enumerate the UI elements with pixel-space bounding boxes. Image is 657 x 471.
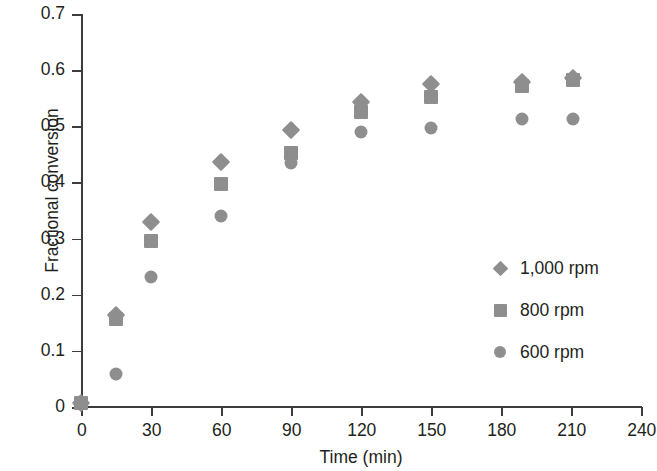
data-point [109,312,123,326]
x-tick-label: 120 [347,420,376,441]
y-tick-label: 0 [55,396,65,417]
data-point [212,152,230,170]
x-tick-label: 30 [142,420,161,441]
data-point [566,73,580,87]
square-marker-icon [490,304,510,317]
data-point [425,121,438,134]
legend-item-label: 800 rpm [520,300,584,321]
y-tick-label: 0.6 [41,59,65,80]
data-point [215,210,228,223]
data-point [354,105,368,119]
y-tick-label: 0.7 [41,3,65,24]
x-tick-label: 60 [212,420,231,441]
x-tick-label: 210 [557,420,586,441]
y-tick: 0.2 [72,295,81,297]
legend-item: 600 rpm [490,331,640,373]
data-point [145,270,158,283]
y-tick-label: 0.2 [41,284,65,305]
data-point [424,90,438,104]
data-point [214,177,228,191]
legend-item-label: 1,000 rpm [520,258,599,279]
x-tick: 90 [291,407,293,416]
data-point [75,397,88,410]
y-tick-label: 0.1 [41,340,65,361]
legend-item: 800 rpm [490,289,640,331]
x-tick: 180 [501,407,503,416]
y-tick-label: 0.5 [41,115,65,136]
data-point [142,213,160,231]
x-tick-label: 0 [77,420,87,441]
y-tick: 0.4 [72,182,81,184]
x-tick: 240 [641,407,643,416]
x-tick-label: 90 [282,420,301,441]
x-tick-label: 240 [627,420,656,441]
circle-marker-icon [490,346,510,358]
diamond-marker-icon [490,263,510,274]
data-point [515,79,529,93]
y-tick: 0.1 [72,351,81,353]
x-tick-label: 180 [487,420,516,441]
x-tick: 60 [221,407,223,416]
y-tick: 0.7 [72,14,81,16]
y-tick-label: 0.4 [41,171,65,192]
scatter-chart: Fractional conversion Time (min) 00.10.2… [0,0,657,471]
data-point [567,112,580,125]
data-point [282,121,300,139]
x-tick-label: 150 [417,420,446,441]
y-tick: 0.3 [72,239,81,241]
data-point [285,157,298,170]
data-point [355,125,368,138]
y-tick: 0.6 [72,70,81,72]
data-point [144,234,158,248]
legend: 1,000 rpm800 rpm600 rpm [490,247,640,373]
x-tick: 30 [151,407,153,416]
y-tick-label: 0.3 [41,228,65,249]
x-tick: 120 [361,407,363,416]
data-point [516,112,529,125]
legend-item-label: 600 rpm [520,342,584,363]
y-tick: 0.5 [72,126,81,128]
x-tick: 150 [431,407,433,416]
x-axis-title: Time (min) [81,447,641,468]
legend-item: 1,000 rpm [490,247,640,289]
x-tick: 210 [571,407,573,416]
data-point [110,367,123,380]
